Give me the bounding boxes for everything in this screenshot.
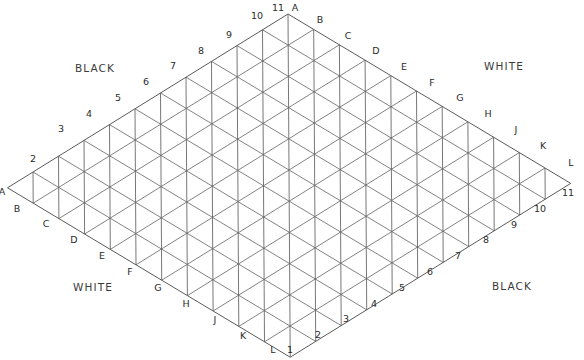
axis-tick-label: G — [456, 92, 463, 103]
axis-tick-label: K — [540, 140, 547, 151]
axis-tick-label: 4 — [371, 298, 377, 309]
grid-diagonal-left — [265, 168, 546, 342]
axis-tick-label: 11 — [272, 2, 284, 13]
axis-tick-label: K — [240, 330, 247, 341]
axis-tick-label: B — [317, 14, 324, 25]
axis-tick-label: H — [182, 298, 189, 309]
grid-diagonal-right — [263, 30, 546, 199]
axis-tick-label: J — [213, 314, 217, 325]
axis-tick-label: H — [484, 108, 491, 119]
axis-tick-label: 7 — [455, 250, 461, 261]
lattice-board-svg: 234567891011ABCDEFGHJKLABCDEFGHJKL123456… — [0, 0, 584, 360]
grid-diagonal-left — [33, 29, 314, 203]
axis-tick-label: 11 — [562, 187, 574, 198]
grid-diagonal-left — [239, 153, 520, 327]
axis-tick-label: C — [345, 30, 352, 41]
axis-tick-label: 5 — [399, 282, 405, 293]
axis-tick-label: 3 — [58, 123, 64, 134]
axis-tick-label: L — [568, 157, 574, 168]
axis-tick-label: A — [292, 2, 299, 13]
grid-diagonal-right — [212, 61, 495, 230]
grid-diagonal-left — [110, 76, 391, 250]
region-bottom-left: WHITE — [73, 281, 113, 293]
board-edge-line — [288, 14, 571, 183]
tick-labels-layer: 234567891011ABCDEFGHJKLABCDEFGHJKL123456… — [0, 2, 574, 355]
axis-tick-label: G — [154, 282, 161, 293]
grid-diagonal-right — [161, 93, 444, 262]
axis-tick-label: 10 — [251, 10, 263, 21]
axis-tick-label: A — [0, 186, 6, 197]
axis-tick-label: 7 — [170, 60, 176, 71]
axis-tick-label: 8 — [483, 234, 489, 245]
axis-tick-label: L — [270, 344, 276, 355]
axis-tick-label: E — [401, 61, 407, 72]
axis-tick-label: 1 — [287, 344, 293, 355]
grid-diagonal-left — [213, 137, 494, 311]
grid-diagonal-left — [162, 106, 443, 280]
axis-tick-label: 5 — [115, 92, 121, 103]
axis-tick-label: 6 — [427, 266, 433, 277]
axis-tick-label: 8 — [198, 45, 204, 56]
axis-tick-label: D — [70, 234, 77, 245]
grid-diagonal-right — [59, 156, 342, 325]
grid-diagonal-right — [237, 46, 520, 215]
axis-tick-label: 9 — [511, 219, 517, 230]
axis-tick-label: C — [43, 218, 50, 229]
axis-tick-label: D — [372, 45, 379, 56]
board-edge-line — [8, 14, 289, 188]
axis-tick-label: J — [514, 124, 518, 135]
axis-tick-label: F — [429, 77, 434, 88]
axis-tick-label: B — [14, 203, 21, 214]
region-top-left: BLACK — [75, 62, 115, 74]
axis-tick-label: 3 — [343, 313, 349, 324]
grid-diagonal-right — [110, 125, 393, 294]
axis-tick-label: F — [127, 266, 132, 277]
axis-tick-label: E — [99, 250, 105, 261]
grid-diagonal-left — [187, 122, 468, 296]
grid-diagonal-left — [136, 91, 417, 265]
grid-diagonal-left — [85, 60, 366, 234]
grid-diagonal-right — [186, 77, 469, 246]
axis-tick-label: 4 — [86, 108, 92, 119]
axis-tick-label: 9 — [226, 29, 232, 40]
region-bottom-right: BLACK — [492, 280, 532, 292]
board-edge-line — [8, 188, 291, 357]
grid-diagonal-right — [33, 172, 316, 341]
axis-tick-label: 2 — [315, 329, 321, 340]
grid-diagonal-right — [135, 109, 418, 278]
axis-tick-label: 6 — [143, 76, 149, 87]
region-top-right: WHITE — [484, 60, 524, 72]
axis-tick-label: 10 — [534, 203, 546, 214]
grid-diagonal-right — [84, 140, 367, 309]
board-figure: 234567891011ABCDEFGHJKLABCDEFGHJKL123456… — [0, 0, 584, 360]
axis-tick-label: 2 — [30, 153, 36, 164]
